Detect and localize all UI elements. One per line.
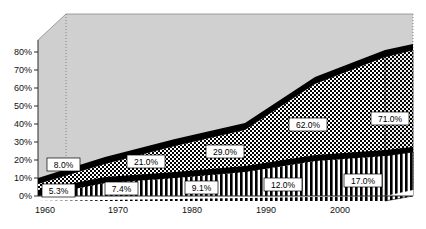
data-label-8-0: 8.0% <box>47 158 80 171</box>
area-chart: 80% 70% 60% 50% 40% 30% 20% 10% 0% 1960 … <box>0 0 426 229</box>
x-tick-label-1970: 1970 <box>108 205 128 215</box>
data-label-9-1: 9.1% <box>185 181 218 194</box>
data-label-value: 7.4% <box>112 184 132 194</box>
x-tick-label-1960: 1960 <box>35 205 55 215</box>
y-tick-label-60: 60% <box>14 83 32 93</box>
data-label-29-0: 29.0% <box>206 145 244 158</box>
data-label-71-0: 71.0% <box>371 112 409 125</box>
y-tick-label-40: 40% <box>14 119 32 129</box>
y-tick-marks <box>34 52 38 196</box>
y-tick-label-30: 30% <box>14 137 32 147</box>
data-label-value: 29.0% <box>213 147 238 157</box>
y-tick-label-20: 20% <box>14 155 32 165</box>
data-label-17-0: 17.0% <box>344 174 382 187</box>
data-label-5-3: 5.3% <box>42 184 75 197</box>
data-label-21-0: 21.0% <box>127 155 165 168</box>
x-tick-label-1980: 1980 <box>182 205 202 215</box>
chart-container: 80% 70% 60% 50% 40% 30% 20% 10% 0% 1960 … <box>0 0 426 229</box>
data-label-value: 8.0% <box>54 160 74 170</box>
y-tick-label-50: 50% <box>14 101 32 111</box>
data-label-62-0: 62.0% <box>289 118 327 131</box>
data-label-7-4: 7.4% <box>105 182 138 195</box>
data-label-value: 71.0% <box>378 114 403 124</box>
y-tick-label-10: 10% <box>14 173 32 183</box>
data-label-12-0: 12.0% <box>264 178 302 191</box>
y-axis-group: 80% 70% 60% 50% 40% 30% 20% 10% 0% <box>14 40 38 201</box>
data-label-value: 17.0% <box>351 176 376 186</box>
data-label-value: 21.0% <box>134 157 159 167</box>
data-label-value: 9.1% <box>192 183 212 193</box>
x-tick-label-2000: 2000 <box>330 205 350 215</box>
data-label-value: 62.0% <box>296 120 321 130</box>
y-tick-label-0: 0% <box>19 191 32 201</box>
x-tick-label-1990: 1990 <box>256 205 276 215</box>
y-tick-label-80: 80% <box>14 47 32 57</box>
data-label-value: 5.3% <box>49 186 69 196</box>
data-label-value: 12.0% <box>271 180 296 190</box>
y-tick-label-70: 70% <box>14 65 32 75</box>
